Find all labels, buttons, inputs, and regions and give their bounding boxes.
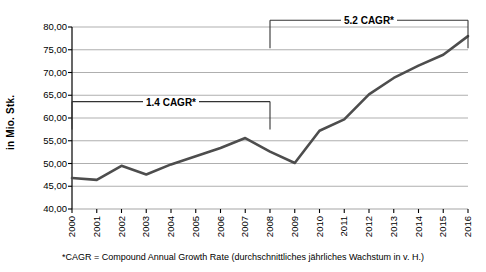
x-axis-tick-label: 2010	[315, 216, 325, 237]
x-axis-tick-label: 2006	[216, 216, 226, 237]
x-axis-tick-label: 2015	[438, 216, 448, 237]
x-axis-tick-label: 2011	[339, 216, 349, 236]
cagr-label-upper: 5.2 CAGR*	[341, 15, 397, 26]
x-axis-tick-label: 2002	[117, 216, 127, 237]
chart-container: in Mio. Stk. 40,0045,0050,0055,0060,0065…	[0, 0, 486, 272]
x-axis-tick-label: 2008	[265, 216, 275, 237]
x-axis-tick-label: 2009	[290, 216, 300, 237]
x-axis-tick-label: 2003	[141, 216, 151, 237]
chart-footnote: *CAGR = Compound Annual Growth Rate (dur…	[0, 252, 486, 262]
x-axis-tick-label: 2012	[364, 216, 374, 237]
x-axis-tick-label: 2007	[240, 216, 250, 237]
x-axis-tick-label: 2004	[166, 216, 176, 237]
x-axis-tick-label: 2005	[191, 216, 201, 237]
x-axis-tick-label: 2013	[389, 216, 399, 237]
x-axis-tick-label: 2014	[414, 216, 424, 237]
x-axis-tick-label: 2016	[463, 216, 473, 237]
x-axis-tick-label: 2000	[67, 216, 77, 237]
x-axis-tick-label: 2001	[92, 216, 102, 237]
cagr-label-lower: 1.4 CAGR*	[143, 97, 199, 108]
